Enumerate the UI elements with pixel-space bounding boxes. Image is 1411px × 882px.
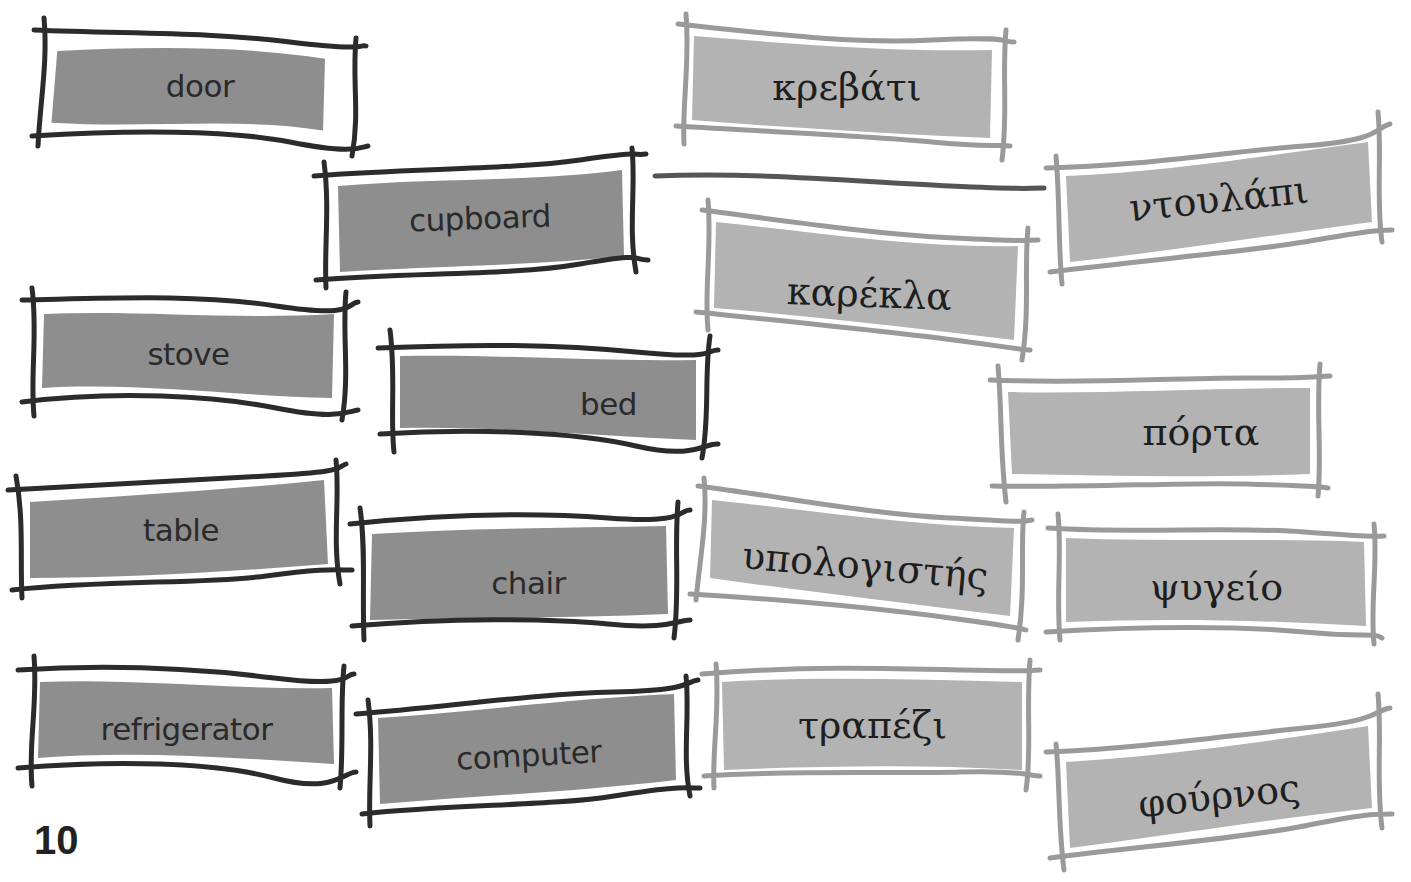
greek-card-ypologistis[interactable]: υπολογιστής [690, 478, 1040, 638]
wavy-frame-icon [694, 200, 1044, 360]
wavy-frame-icon [6, 460, 356, 600]
wavy-frame-icon [690, 478, 1040, 638]
wavy-frame-icon [16, 284, 361, 420]
english-card-chair[interactable]: chair [348, 500, 693, 642]
page-number: 10 [34, 818, 79, 863]
english-card-bed[interactable]: bed [376, 326, 721, 458]
english-card-cupboard[interactable]: cupboard [310, 148, 650, 288]
wavy-frame-icon [30, 12, 370, 152]
greek-card-karekla[interactable]: καρέκλα [694, 200, 1044, 360]
english-card-stove[interactable]: stove [16, 284, 361, 420]
wavy-frame-icon [354, 676, 704, 826]
wavy-frame-icon [700, 660, 1045, 790]
wavy-frame-icon [672, 14, 1022, 160]
greek-card-ntoulapi[interactable]: ντουλάπι [1044, 112, 1394, 286]
wavy-frame-icon [348, 500, 693, 642]
greek-card-psygeio[interactable]: ψυγείο [1044, 514, 1389, 644]
wavy-frame-icon [1044, 112, 1394, 286]
greek-card-krevati[interactable]: κρεβάτι [672, 14, 1022, 160]
wavy-frame-icon [1044, 694, 1394, 870]
greek-card-trapezi[interactable]: τραπέζι [700, 660, 1045, 790]
wavy-frame-icon [14, 654, 359, 788]
wavy-frame-icon [1044, 514, 1389, 644]
english-card-table[interactable]: table [6, 460, 356, 600]
english-card-computer[interactable]: computer [354, 676, 704, 826]
english-card-door[interactable]: door [30, 12, 370, 152]
wavy-frame-icon [376, 326, 721, 458]
greek-card-fournos[interactable]: φούρνος [1044, 694, 1394, 870]
english-card-refrigerator[interactable]: refrigerator [14, 654, 359, 788]
wavy-frame-icon [310, 148, 650, 288]
